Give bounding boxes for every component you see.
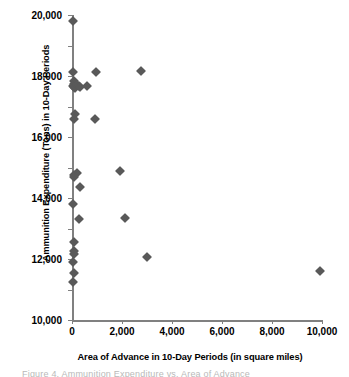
x-tick-label: 2,000 bbox=[109, 326, 134, 337]
x-tick bbox=[322, 320, 323, 324]
data-point bbox=[142, 252, 152, 262]
x-tick bbox=[72, 320, 73, 324]
y-tick: 6,000 bbox=[68, 229, 72, 230]
y-tick-label: 18,000 bbox=[31, 71, 62, 82]
plot-area: 02,0004,0006,0008,00010,00012,00014,0001… bbox=[72, 15, 322, 320]
data-point bbox=[315, 266, 325, 276]
data-point bbox=[120, 213, 130, 223]
y-tick-label: 10,000 bbox=[31, 315, 62, 326]
x-axis-line bbox=[72, 320, 322, 322]
x-tick bbox=[222, 320, 223, 324]
figure-caption-clipped: Figure 4. Ammunition Expenditure vs. Are… bbox=[22, 369, 342, 377]
y-tick: 18,000 bbox=[68, 46, 72, 47]
y-tick: 2,000 bbox=[68, 290, 72, 291]
data-point bbox=[68, 257, 78, 267]
data-point bbox=[115, 166, 125, 176]
data-point bbox=[82, 81, 92, 91]
data-point bbox=[68, 277, 78, 287]
data-point bbox=[91, 67, 101, 77]
x-tick bbox=[272, 320, 273, 324]
y-tick-label: 14,000 bbox=[31, 193, 62, 204]
y-tick: 10,000 bbox=[68, 168, 72, 169]
x-tick-label: 10,000 bbox=[307, 326, 338, 337]
x-tick-label: 0 bbox=[69, 326, 75, 337]
y-tick: 14,000 bbox=[68, 107, 72, 108]
x-tick-label: 8,000 bbox=[259, 326, 284, 337]
x-tick-label: 4,000 bbox=[159, 326, 184, 337]
x-tick bbox=[172, 320, 173, 324]
data-point bbox=[68, 199, 78, 209]
x-axis-title: Area of Advance in 10-Day Periods (in sq… bbox=[40, 352, 340, 362]
scatter-chart-figure: Ammunition Expenditure (Tons) in 10-Day … bbox=[0, 0, 349, 377]
data-point bbox=[68, 16, 78, 26]
y-tick-label: 16,000 bbox=[31, 132, 62, 143]
data-point bbox=[136, 66, 146, 76]
data-point bbox=[74, 214, 84, 224]
data-point bbox=[75, 182, 85, 192]
data-point bbox=[90, 115, 100, 125]
x-tick bbox=[122, 320, 123, 324]
y-tick-label: 20,000 bbox=[31, 10, 62, 21]
y-tick: 12,000 bbox=[68, 137, 72, 138]
x-tick-label: 6,000 bbox=[209, 326, 234, 337]
y-tick-label: 12,000 bbox=[31, 254, 62, 265]
